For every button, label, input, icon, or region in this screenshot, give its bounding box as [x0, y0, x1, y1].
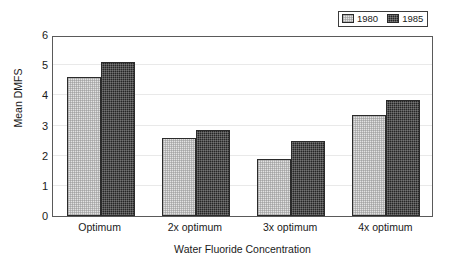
bar-1985-optimum [101, 62, 135, 216]
bar-1980-optimum [67, 77, 101, 216]
x-axis-tick-label: 4x optimum [338, 222, 433, 233]
x-axis-tick-label: 2x optimum [147, 222, 242, 233]
bar-1980-3x-optimum [257, 159, 291, 216]
bar-1980-4x-optimum [352, 115, 386, 216]
x-axis-tick-label: 3x optimum [243, 222, 338, 233]
x-axis-title: Water Fluoride Concentration [52, 243, 433, 255]
legend-swatch-1985-icon [387, 14, 399, 23]
legend-label-1985: 1985 [402, 14, 423, 24]
legend-entry-1985: 1985 [387, 14, 423, 24]
y-axis-tick-label: 1 [32, 181, 48, 192]
y-axis-tick-label: 3 [32, 121, 48, 132]
y-axis-tick-label: 0 [32, 211, 48, 222]
x-axis-tick-label: Optimum [52, 222, 147, 233]
y-axis-tick-label: 5 [32, 60, 48, 71]
legend-swatch-1980-icon [342, 14, 354, 23]
bar-1985-4x-optimum [386, 100, 420, 216]
y-axis-tick-label: 2 [32, 151, 48, 162]
chart-legend: 1980 1985 [338, 11, 428, 27]
bar-chart: 1980 1985 Mean DMFS 0123456 Optimum2x op… [0, 0, 454, 266]
plot-area [52, 36, 433, 217]
y-axis-tick-label: 4 [32, 90, 48, 101]
bar-1980-2x-optimum [162, 138, 196, 216]
bar-1985-3x-optimum [291, 141, 325, 216]
legend-label-1980: 1980 [357, 14, 378, 24]
y-axis-tick-label: 6 [32, 30, 48, 41]
y-axis-title: Mean DMFS [12, 48, 24, 148]
legend-entry-1980: 1980 [342, 14, 378, 24]
bar-1985-2x-optimum [196, 130, 230, 216]
